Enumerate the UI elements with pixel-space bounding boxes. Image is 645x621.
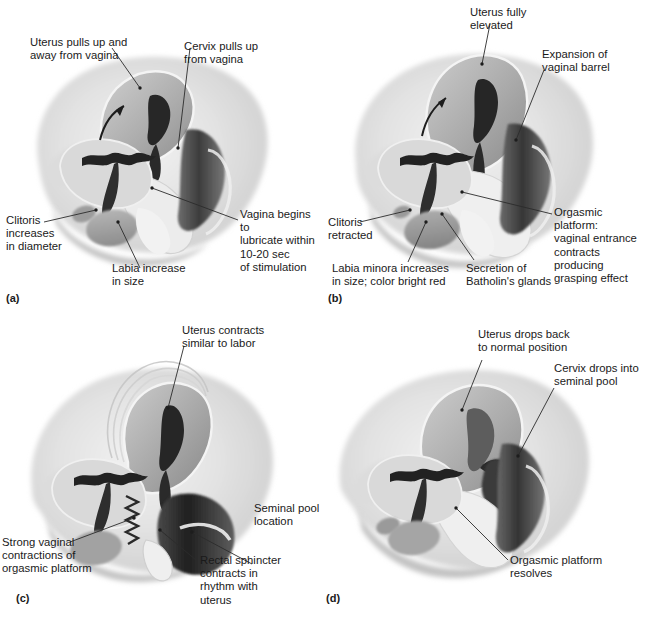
figure-female-sexual-response-cycle: Uterus pulls up and away from vagina Cer… bbox=[0, 0, 645, 621]
callout-rectal-sphincter-contracts: Rectal sphincter contracts in rhythm wit… bbox=[200, 554, 281, 607]
callout-seminal-pool-location: Seminal pool location bbox=[254, 502, 319, 528]
panel-a-excitement-phase: Uterus pulls up and away from vagina Cer… bbox=[0, 0, 322, 310]
callout-vagina-lubricates: Vagina begins to lubricate within 10-20 … bbox=[240, 208, 322, 274]
callout-uterus-pulls-up: Uterus pulls up and away from vagina bbox=[30, 36, 127, 62]
callout-uterus-drops-back: Uterus drops back to normal position bbox=[478, 328, 570, 354]
panel-d-resolution-phase: Uterus drops back to normal position Cer… bbox=[322, 310, 644, 620]
panel-letter-c: (c) bbox=[16, 592, 29, 604]
panel-letter-b: (b) bbox=[328, 292, 342, 304]
callout-cervix-drops-seminal-pool: Cervix drops into seminal pool bbox=[554, 362, 639, 388]
callout-expansion-vaginal-barrel: Expansion of vaginal barrel bbox=[542, 48, 610, 74]
panel-b-plateau-phase: Uterus fully elevated Expansion of vagin… bbox=[322, 0, 644, 310]
callout-strong-vaginal-contractions: Strong vaginal contractions of orgasmic … bbox=[2, 536, 92, 576]
callout-orgasmic-platform-resolves: Orgasmic platform resolves bbox=[510, 554, 644, 580]
callout-clitoris-retracted: Clitoris retracted bbox=[328, 216, 373, 242]
callout-clitoris-increases: Clitoris increases in diameter bbox=[6, 214, 62, 254]
callout-uterus-contracts: Uterus contracts similar to labor bbox=[182, 324, 264, 350]
callout-labia-minora-increases: Labia minora increases in size; color br… bbox=[332, 262, 449, 288]
panel-c-orgasm-phase: Uterus contracts similar to labor Semina… bbox=[0, 310, 322, 620]
callout-cervix-pulls-up: Cervix pulls up from vagina bbox=[184, 40, 258, 66]
panel-letter-d: (d) bbox=[326, 592, 340, 604]
callout-labia-increase: Labia increase in size bbox=[112, 262, 185, 288]
callout-secretion-batholins: Secretion of Batholin's glands bbox=[466, 262, 551, 288]
callout-uterus-fully-elevated: Uterus fully elevated bbox=[470, 6, 527, 32]
callout-orgasmic-platform: Orgasmic platform: vaginal entrance cont… bbox=[554, 206, 644, 285]
panel-letter-a: (a) bbox=[6, 292, 19, 304]
